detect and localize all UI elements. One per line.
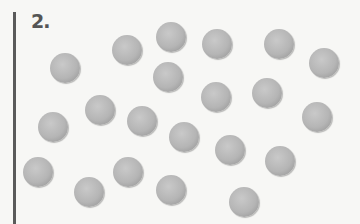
ball-icon: [302, 102, 332, 132]
ball-icon: [50, 53, 80, 83]
ball-icon: [38, 112, 68, 142]
ball-icon: [215, 135, 245, 165]
ball-icon: [112, 35, 142, 65]
ball-icon: [252, 78, 282, 108]
ball-icon: [202, 29, 232, 59]
ball-icon: [169, 122, 199, 152]
ball-icon: [156, 175, 186, 205]
ball-icon: [23, 157, 53, 187]
ball-icon: [201, 82, 231, 112]
left-margin-bar: [13, 12, 16, 224]
ball-icon: [229, 187, 259, 217]
question-number: 2.: [31, 10, 49, 32]
ball-icon: [74, 177, 104, 207]
ball-icon: [156, 22, 186, 52]
ball-icon: [153, 62, 183, 92]
ball-icon: [85, 95, 115, 125]
ball-icon: [113, 157, 143, 187]
ball-icon: [127, 106, 157, 136]
ball-icon: [265, 146, 295, 176]
ball-icon: [264, 29, 294, 59]
ball-icon: [309, 48, 339, 78]
